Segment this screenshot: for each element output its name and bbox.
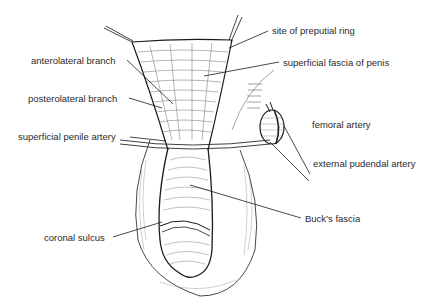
label-bucks-fascia: Buck’s fascia [305,213,360,224]
label-superficial-penile-artery: superficial penile artery [18,131,116,142]
inguinal-flap [232,70,274,130]
label-coronal-sulcus: coronal sulcus [44,232,105,243]
outer-skin [136,140,257,296]
penile-shaft [159,148,213,277]
label-femoral-artery: femoral artery [312,119,371,130]
shaft-hatching [163,157,210,264]
retractor-hooks [104,15,242,42]
label-site-of-preputial-ring: site of preputial ring [272,25,355,36]
superficial-fascia-funnel [132,39,232,150]
femoral-hatching [261,118,284,136]
fascia-hatching [138,43,228,140]
anatomical-drawing [0,0,444,307]
superficial-penile-artery-vessel [120,140,270,149]
label-external-pudendal-artery: external pudendal artery [313,158,415,169]
label-anterolateral-branch: anterolateral branch [31,55,116,66]
label-posterolateral-branch: posterolateral branch [28,93,117,104]
outer-skin-hatching [139,160,252,289]
femoral-artery-vessel [260,102,284,144]
label-superficial-fascia-of-penis: superficial fascia of penis [283,57,389,68]
